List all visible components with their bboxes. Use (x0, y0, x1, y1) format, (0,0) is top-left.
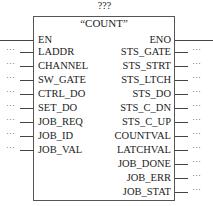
output-pin-eno: ENO (149, 34, 171, 46)
input-pin-job-req: JOB_REQ (38, 116, 83, 128)
output-pin-sts-gate: STS_GATE (121, 46, 171, 58)
input-wire (20, 136, 33, 137)
input-pin-sw-gate: SW_GATE (38, 74, 86, 86)
input-pin-channel: CHANNEL (38, 60, 88, 72)
input-connection-laddr[interactable]: … (6, 42, 15, 52)
output-connection-sts-c-up[interactable]: … (192, 112, 201, 122)
output-wire (175, 192, 188, 193)
input-wire (20, 80, 33, 81)
input-connection-sw-gate[interactable]: … (6, 70, 15, 80)
output-pin-sts-c-dn: STS_C_DN (120, 102, 171, 114)
eno-wire (175, 40, 213, 41)
output-connection-job-stat[interactable]: … (192, 182, 201, 192)
output-pin-sts-do: STS_DO (132, 88, 171, 100)
output-connection-sts-do[interactable]: … (192, 84, 201, 94)
output-wire (175, 80, 188, 81)
output-connection-sts-c-dn[interactable]: … (192, 98, 201, 108)
output-connection-countval[interactable]: … (192, 126, 201, 136)
output-wire (175, 108, 188, 109)
input-connection-ctrl-do[interactable]: … (6, 84, 15, 94)
input-wire (20, 122, 33, 123)
input-pin-ctrl-do: CTRL_DO (38, 88, 85, 100)
output-pin-job-stat: JOB_STAT (123, 186, 171, 198)
output-wire (175, 52, 188, 53)
input-wire (20, 52, 33, 53)
input-connection-job-req[interactable]: … (6, 112, 15, 122)
input-connection-job-val[interactable]: … (6, 140, 15, 150)
output-connection-sts-gate[interactable]: … (192, 42, 201, 52)
output-pin-latchval: LATCHVAL (117, 144, 171, 156)
output-connection-job-done[interactable]: … (192, 154, 201, 164)
input-pin-laddr: LADDR (38, 46, 74, 58)
en-wire (0, 40, 33, 41)
input-wire (20, 108, 33, 109)
output-connection-latchval[interactable]: … (192, 140, 201, 150)
output-wire (175, 66, 188, 67)
input-connection-set-do[interactable]: … (6, 98, 15, 108)
output-wire (175, 122, 188, 123)
output-connection-sts-ltch[interactable]: … (192, 70, 201, 80)
input-wire (20, 66, 33, 67)
input-pin-job-val: JOB_VAL (38, 144, 82, 156)
output-wire (175, 164, 188, 165)
output-pin-sts-strt: STS_STRT (123, 60, 171, 72)
input-connection-channel[interactable]: … (6, 56, 15, 66)
output-connection-job-err[interactable]: … (192, 168, 201, 178)
input-pin-job-id: JOB_ID (38, 130, 73, 142)
input-pin-set-do: SET_DO (38, 102, 77, 114)
output-pin-job-done: JOB_DONE (118, 158, 171, 170)
output-wire (175, 136, 188, 137)
output-pin-sts-ltch: STS_LTCH (121, 74, 171, 86)
output-pin-sts-c-up: STS_C_UP (122, 116, 171, 128)
input-connection-job-id[interactable]: … (6, 126, 15, 136)
block-title: “COUNT” (33, 17, 175, 29)
output-wire (175, 178, 188, 179)
input-wire (20, 94, 33, 95)
output-pin-countval: COUNTVAL (115, 130, 171, 142)
output-wire (175, 94, 188, 95)
output-wire (175, 150, 188, 151)
input-pin-en: EN (38, 34, 52, 46)
input-wire (20, 150, 33, 151)
output-pin-job-err: JOB_ERR (127, 172, 171, 184)
instance-name: ??? (33, 0, 176, 12)
output-connection-sts-strt[interactable]: … (192, 56, 201, 66)
